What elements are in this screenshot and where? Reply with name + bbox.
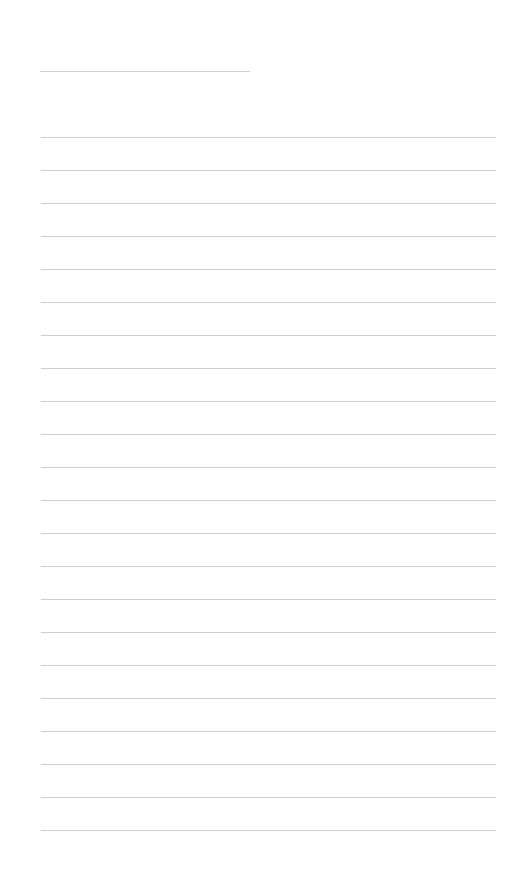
ruled-line <box>41 566 496 567</box>
ruled-line <box>41 500 496 501</box>
ruled-line <box>41 599 496 600</box>
ruled-line <box>41 302 496 303</box>
ruled-line <box>41 434 496 435</box>
ruled-line <box>41 170 496 171</box>
ruled-line <box>41 797 496 798</box>
lined-page <box>0 0 513 871</box>
ruled-line <box>41 731 496 732</box>
ruled-line <box>41 137 496 138</box>
title-line <box>40 71 250 72</box>
ruled-line <box>41 368 496 369</box>
ruled-line <box>41 269 496 270</box>
ruled-line <box>41 698 496 699</box>
ruled-line <box>41 533 496 534</box>
ruled-line <box>41 335 496 336</box>
ruled-line <box>41 764 496 765</box>
ruled-line <box>41 665 496 666</box>
ruled-line <box>41 830 496 831</box>
ruled-line <box>41 203 496 204</box>
ruled-line <box>41 632 496 633</box>
ruled-line <box>41 467 496 468</box>
ruled-line <box>41 401 496 402</box>
ruled-line <box>41 236 496 237</box>
